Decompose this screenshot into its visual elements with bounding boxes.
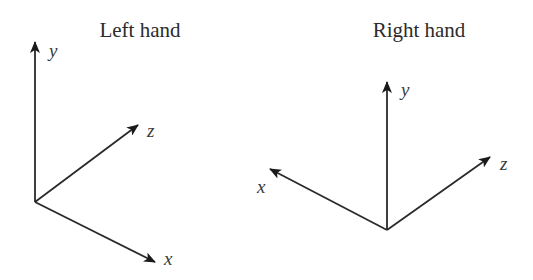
right-z-axis: z [387, 153, 508, 230]
right-x-arrow-icon [270, 169, 387, 230]
right-hand-title: Right hand [373, 18, 466, 42]
left-hand-panel: Left hand y z x [35, 18, 181, 269]
right-x-axis: x [256, 169, 387, 230]
left-x-label: x [163, 248, 173, 269]
right-y-label: y [399, 79, 410, 100]
right-x-label: x [256, 176, 266, 197]
left-z-label: z [146, 120, 155, 141]
right-z-label: z [499, 153, 508, 174]
left-z-arrow-icon [35, 125, 138, 202]
right-z-arrow-icon [387, 157, 490, 230]
left-x-axis: x [35, 202, 173, 269]
right-y-axis: y [387, 79, 410, 230]
coordinate-systems-diagram: Left hand y z x Right hand y x z [0, 0, 533, 280]
left-y-label: y [47, 40, 58, 61]
left-x-arrow-icon [35, 202, 155, 262]
left-z-axis: z [35, 120, 155, 202]
left-hand-title: Left hand [99, 18, 181, 42]
right-hand-panel: Right hand y x z [256, 18, 508, 230]
left-y-axis: y [35, 40, 58, 202]
